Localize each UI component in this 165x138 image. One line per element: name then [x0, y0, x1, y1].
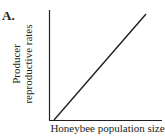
x-axis-label: Honeybee population size — [50, 122, 165, 134]
plot-area — [0, 0, 165, 138]
data-line — [54, 14, 146, 120]
